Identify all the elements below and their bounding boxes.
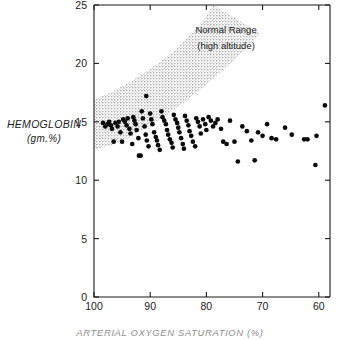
data-point <box>143 132 148 137</box>
data-point <box>203 122 208 127</box>
data-point <box>142 124 147 129</box>
data-point <box>130 142 135 147</box>
data-point <box>116 119 121 124</box>
y-axis-label-main: HEMOGLOBIN <box>0 118 88 130</box>
data-point <box>240 124 245 129</box>
data-point <box>118 130 123 135</box>
data-point <box>133 122 138 127</box>
data-point <box>182 146 187 151</box>
data-point <box>164 122 169 127</box>
x-axis-label: ARTERIAL OXYGEN SATURATION (%) <box>0 322 340 340</box>
data-point <box>127 126 132 131</box>
data-point <box>176 125 181 130</box>
data-point <box>155 138 160 143</box>
data-point <box>228 118 233 123</box>
data-point <box>283 125 288 130</box>
data-point <box>204 128 209 133</box>
data-point <box>166 132 171 137</box>
data-point <box>144 94 149 99</box>
y-tick-label: 0 <box>81 291 87 303</box>
data-point <box>252 158 257 163</box>
data-point <box>184 118 189 123</box>
data-point <box>141 116 146 121</box>
data-point <box>189 133 194 138</box>
data-point <box>323 103 328 108</box>
data-point <box>187 129 192 134</box>
data-point <box>148 111 153 116</box>
x-axis-label-text: ARTERIAL OXYGEN SATURATION (%) <box>76 327 263 338</box>
data-point <box>249 138 254 143</box>
normal-range-label-line2: (high altitude) <box>197 40 255 51</box>
data-point <box>157 147 162 152</box>
data-point <box>215 117 220 122</box>
y-axis-label: HEMOGLOBIN (gm.%) <box>0 118 88 144</box>
y-tick-label: 5 <box>81 233 87 245</box>
data-point <box>236 159 241 164</box>
data-point <box>260 133 265 138</box>
data-point <box>125 116 130 121</box>
data-point <box>289 132 294 137</box>
data-point <box>265 122 270 127</box>
data-point <box>169 140 174 145</box>
data-point <box>134 128 139 133</box>
data-point <box>144 138 149 143</box>
data-point <box>128 131 133 136</box>
x-tick-label: 80 <box>201 300 213 312</box>
data-point <box>201 117 206 122</box>
data-point <box>197 124 202 129</box>
data-point <box>136 136 141 141</box>
data-point <box>183 114 188 119</box>
data-point <box>171 112 176 117</box>
data-point <box>193 144 198 149</box>
data-point <box>165 128 170 133</box>
data-point <box>244 129 249 134</box>
data-point <box>313 163 318 168</box>
y-tick-label: 20 <box>75 57 87 69</box>
data-point <box>138 153 143 158</box>
data-point <box>159 109 164 114</box>
data-point <box>198 131 203 136</box>
y-axis-label-unit: (gm.%) <box>0 133 88 144</box>
x-tick-label: 70 <box>257 300 269 312</box>
data-point <box>191 139 196 144</box>
x-tick-label: 100 <box>85 300 103 312</box>
data-point <box>115 124 120 129</box>
normal-range-label-line1: Normal Range <box>195 24 256 35</box>
data-point <box>111 139 116 144</box>
data-point <box>156 143 161 148</box>
x-tick-label: 60 <box>313 300 325 312</box>
x-tick-label: 90 <box>144 300 156 312</box>
data-point <box>152 130 157 135</box>
data-point <box>314 133 319 138</box>
data-point <box>149 117 154 122</box>
data-point <box>170 145 175 150</box>
data-point <box>120 139 125 144</box>
data-point <box>186 123 191 128</box>
data-point <box>196 119 201 124</box>
data-point <box>177 130 182 135</box>
data-point <box>256 130 261 135</box>
data-point <box>274 137 279 142</box>
data-point <box>305 137 310 142</box>
x-axis-tick-labels: 10090807060 <box>85 300 325 312</box>
data-point <box>146 144 151 149</box>
data-point <box>224 142 229 147</box>
y-tick-label: 25 <box>75 0 87 11</box>
y-tick-label: 10 <box>75 174 87 186</box>
data-point <box>150 122 155 127</box>
y-axis-tick-labels: 0510152025 <box>75 0 87 303</box>
data-point <box>110 126 115 131</box>
data-point <box>269 136 274 141</box>
data-point <box>209 118 214 123</box>
data-point <box>139 109 144 114</box>
data-point <box>232 139 237 144</box>
data-point <box>179 136 184 141</box>
data-point <box>219 126 224 131</box>
data-point <box>180 142 185 147</box>
data-point <box>175 121 180 126</box>
